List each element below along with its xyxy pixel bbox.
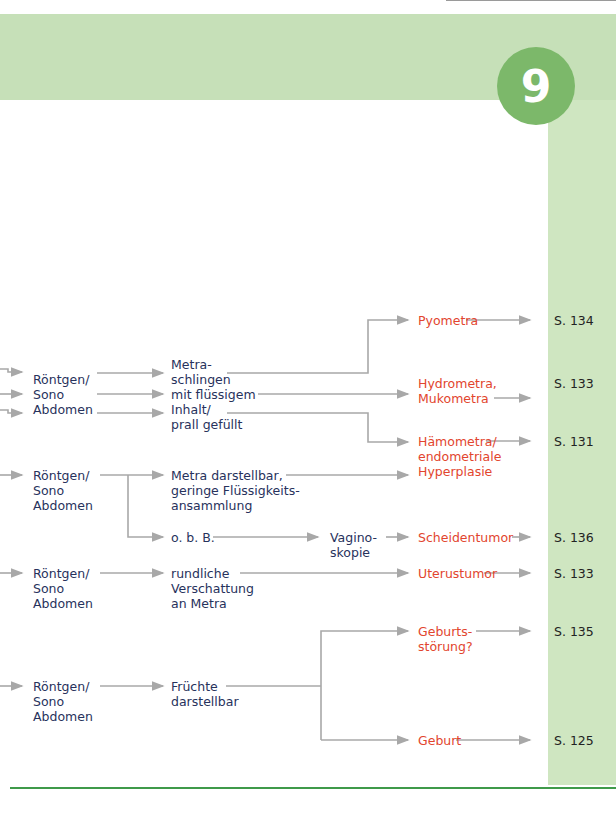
diagnosis-pyometra: Pyometra: [418, 313, 478, 328]
diagnosis-uterine-tumor: Uterustumor: [418, 566, 497, 581]
footer-rule: [10, 787, 616, 789]
finding-metra-loops: Metra- schlingen mit flüssigem Inhalt/ p…: [171, 357, 256, 432]
finding-no-abnormality: o. b. B.: [171, 530, 215, 545]
exam-xray-sono: Röntgen/ Sono Abdomen: [33, 679, 93, 724]
finding-metra-visible: Metra darstellbar, geringe Flüssigkeits-…: [171, 468, 300, 513]
finding-round-shadow: rundliche Verschattung an Metra: [171, 566, 254, 611]
followup-vaginoscopy: Vagino- skopie: [330, 530, 377, 560]
exam-xray-sono: Röntgen/ Sono Abdomen: [33, 468, 93, 513]
page-ref: S. 133: [554, 566, 594, 581]
page-ref: S. 125: [554, 733, 594, 748]
diagnosis-birth: Geburt: [418, 733, 461, 748]
diagnosis-birth-disorder: Geburts- störung?: [418, 624, 473, 654]
diagnosis-haemometra: Hämometra/ endometriale Hyperplasie: [418, 434, 501, 479]
diagnosis-hydrometra: Hydrometra, Mukometra: [418, 376, 497, 406]
finding-fetuses-visible: Früchte darstellbar: [171, 679, 239, 709]
exam-xray-sono: Röntgen/ Sono Abdomen: [33, 566, 93, 611]
page-ref: S. 134: [554, 313, 594, 328]
exam-xray-sono: Röntgen/ Sono Abdomen: [33, 372, 93, 417]
page-ref: S. 131: [554, 434, 594, 449]
page-ref: S. 136: [554, 530, 594, 545]
diagnosis-vaginal-tumor: Scheidentumor: [418, 530, 513, 545]
page-ref: S. 133: [554, 376, 594, 391]
page-ref: S. 135: [554, 624, 594, 639]
